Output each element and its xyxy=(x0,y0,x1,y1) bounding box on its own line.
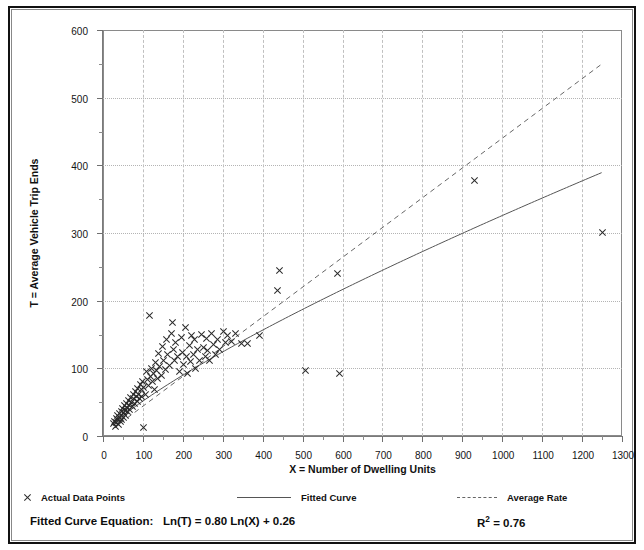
x-tick: 900 xyxy=(462,436,463,442)
legend-item-average-rate: Average Rate xyxy=(457,487,567,507)
x-tick-minor xyxy=(163,436,164,440)
x-tick: 400 xyxy=(263,436,264,442)
y-tick-label: 100 xyxy=(71,364,88,375)
x-tick-minor xyxy=(363,436,364,440)
x-tick: 800 xyxy=(422,436,423,442)
x-tick: 1000 xyxy=(502,436,503,442)
x-tick-minor xyxy=(602,436,603,440)
fitted-curve-equation: Fitted Curve Equation: Ln(T) = 0.80 Ln(X… xyxy=(30,515,295,527)
x-tick: 500 xyxy=(303,436,304,442)
figure-canvas: Plot T = Average Vehicle Trip Ends 01002… xyxy=(0,0,644,550)
y-tick-label: 0 xyxy=(82,432,88,443)
x-tick: 1100 xyxy=(542,436,543,442)
x-tick-label: 1200 xyxy=(572,450,594,461)
x-tick-minor xyxy=(562,436,563,440)
y-tick-label: 400 xyxy=(71,161,88,172)
x-tick: 300 xyxy=(223,436,224,442)
x-tick-label: 700 xyxy=(375,450,392,461)
trend-lines-svg xyxy=(103,30,622,436)
x-tick-label: 0 xyxy=(101,450,107,461)
y-axis-title: T = Average Vehicle Trip Ends xyxy=(26,30,42,436)
x-tick: 200 xyxy=(183,436,184,442)
r-squared-number: = 0.76 xyxy=(493,517,525,529)
x-tick-label: 300 xyxy=(215,450,232,461)
y-tick-label: 500 xyxy=(71,93,88,104)
x-axis-title: X = Number of Dwelling Units xyxy=(103,463,622,475)
x-tick-label: 600 xyxy=(335,450,352,461)
x-tick-label: 800 xyxy=(415,450,432,461)
x-tick-minor xyxy=(522,436,523,440)
x-tick-label: 1100 xyxy=(532,450,554,461)
y-tick-label: 200 xyxy=(71,296,88,307)
legend-label: Actual Data Points xyxy=(41,492,125,503)
x-tick-label: 1300 xyxy=(612,450,634,461)
dashed-line-icon xyxy=(457,497,497,498)
x-tick-minor xyxy=(203,436,204,440)
y-axis-title-text: T = Average Vehicle Trip Ends xyxy=(28,159,40,308)
x-tick-minor xyxy=(243,436,244,440)
x-tick-minor xyxy=(402,436,403,440)
x-tick: 0 xyxy=(103,436,104,442)
x-tick-label: 100 xyxy=(136,450,153,461)
x-tick-minor xyxy=(442,436,443,440)
x-tick-minor xyxy=(323,436,324,440)
x-tick: 700 xyxy=(382,436,383,442)
average-rate-line xyxy=(113,64,602,429)
footer-row: Fitted Curve Equation: Ln(T) = 0.80 Ln(X… xyxy=(22,515,622,537)
x-tick: 1200 xyxy=(582,436,583,442)
legend-item-actual-data-points: Actual Data Points xyxy=(22,487,125,507)
x-tick-label: 400 xyxy=(255,450,272,461)
y-tick-label: 600 xyxy=(71,26,88,37)
x-tick: 100 xyxy=(143,436,144,442)
legend-label: Fitted Curve xyxy=(301,492,356,503)
x-tick-label: 200 xyxy=(176,450,193,461)
legend-label: Average Rate xyxy=(507,492,567,503)
x-tick-minor xyxy=(482,436,483,440)
x-tick-minor xyxy=(123,436,124,440)
x-tick-label: 1000 xyxy=(492,450,514,461)
r-squared-exponent: 2 xyxy=(485,515,490,524)
x-tick: 1300 xyxy=(622,436,623,442)
chart-legend: Actual Data Points Fitted Curve Average … xyxy=(22,487,622,507)
solid-line-icon xyxy=(237,497,291,498)
y-tick-label: 300 xyxy=(71,229,88,240)
r-squared-value: R2 = 0.76 xyxy=(477,515,525,529)
fitted-curve-line xyxy=(113,173,602,425)
x-tick-label: 900 xyxy=(455,450,472,461)
x-tick-label: 500 xyxy=(295,450,312,461)
legend-item-fitted-curve: Fitted Curve xyxy=(237,487,356,507)
x-marker-icon xyxy=(22,493,31,502)
equation-expression: Ln(T) = 0.80 Ln(X) + 0.26 xyxy=(163,515,295,527)
plot-area: 0100200300400500600010020030040050060070… xyxy=(103,30,622,436)
equation-label: Fitted Curve Equation: xyxy=(30,515,153,527)
x-tick-minor xyxy=(283,436,284,440)
x-tick: 600 xyxy=(343,436,344,442)
